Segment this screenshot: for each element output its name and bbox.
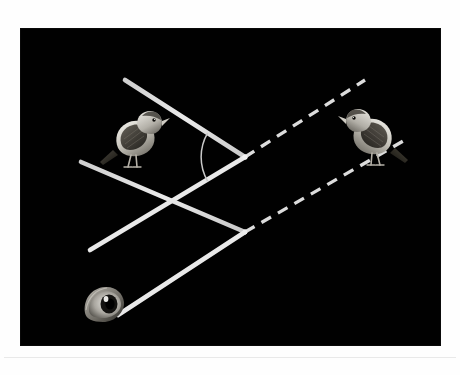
bird-icon [97, 103, 171, 173]
upper-vertex-point [242, 154, 247, 159]
page-canvas [0, 0, 460, 375]
bird-icon [337, 101, 411, 171]
lower-vertex-point [243, 230, 248, 235]
reflected-ray-lower [118, 232, 245, 315]
caption-divider [4, 357, 456, 358]
eye-icon [79, 280, 129, 328]
figure-panel [21, 29, 440, 345]
